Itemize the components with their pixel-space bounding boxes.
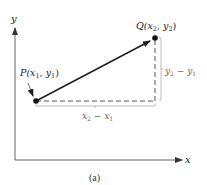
y-axis-label: y (10, 13, 17, 24)
vector-diagram: y x P(x1, y1) Q(x2, y2) y2 − y1 x2 − x1 … (0, 0, 207, 185)
x-axis-label: x (185, 154, 191, 165)
figure-caption: (a) (89, 172, 100, 184)
point-q-label: Q(x2, y2) (136, 20, 176, 33)
coordinate-axes: y x (10, 13, 191, 165)
dx-label: x2 − x1 (82, 111, 113, 122)
point-p (33, 98, 39, 104)
dy-label: y2 − y1 (164, 66, 196, 77)
dx-bracket (36, 104, 155, 106)
p-label-pointer (28, 83, 33, 96)
vector-pq (36, 41, 150, 101)
point-q (152, 35, 158, 41)
point-p-label: P(x1, y1) (19, 67, 59, 80)
dy-bracket (159, 38, 161, 100)
